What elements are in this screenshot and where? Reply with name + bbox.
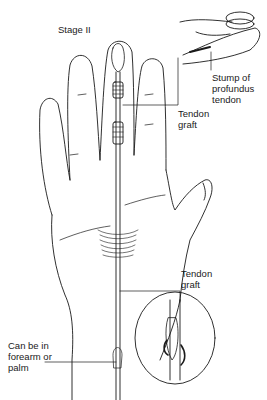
tendon-graft-rod <box>98 44 138 400</box>
forearm-label: Can be in forearm or palm <box>8 340 52 373</box>
leader-lines <box>45 52 211 362</box>
tendon-graft-label-bottom: Tendon graft <box>181 268 212 290</box>
magnified-inset <box>135 292 215 384</box>
hand-outline <box>40 41 212 400</box>
tendon-graft-label-top: Tendon graft <box>178 108 209 130</box>
stage-title: Stage II <box>58 24 91 35</box>
inset-finger-tip <box>180 12 260 64</box>
stump-label: Stump of profundus tendon <box>212 72 254 105</box>
